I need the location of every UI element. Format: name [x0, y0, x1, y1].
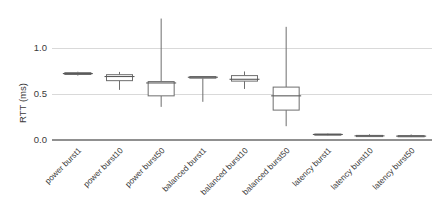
boxplot-box	[313, 134, 343, 136]
box-iqr	[232, 76, 258, 82]
y-tick-label: 0.0	[34, 134, 47, 145]
box-iqr	[273, 87, 299, 110]
box-iqr	[107, 75, 133, 81]
chart-container: 0.00.51.0 power burst1power burst10power…	[0, 0, 444, 219]
boxplot-chart: 0.00.51.0 power burst1power burst10power…	[0, 0, 444, 219]
box-iqr	[148, 82, 174, 96]
y-tick-label: 1.0	[34, 42, 47, 53]
y-tick-label: 0.5	[34, 88, 47, 99]
y-axis-title: RTT (ms)	[17, 83, 28, 123]
